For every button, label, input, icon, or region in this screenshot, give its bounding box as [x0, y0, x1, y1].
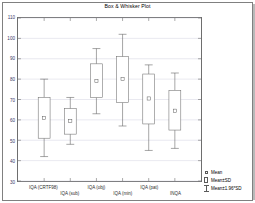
y-axis-labels: 30405060708090100110: [0, 0, 17, 183]
box-whisker-series: [18, 18, 201, 181]
mean-marker-icon: [203, 168, 210, 176]
y-tick-label: 60: [10, 118, 15, 123]
y-tick-label: 90: [10, 56, 15, 61]
legend-label-mean-ci: Mean±1.96*SD: [211, 186, 242, 191]
plot-area: [17, 17, 202, 182]
y-tick-label: 80: [10, 76, 15, 81]
figure-root: Box & Whisker Plot 30405060708090100110 …: [0, 0, 255, 203]
box-whisker-group: [169, 73, 181, 148]
legend-item-mean-sd: Mean±SD: [203, 176, 252, 184]
box-whisker-group: [64, 97, 76, 144]
y-tick-label: 30: [10, 180, 15, 185]
y-tick-label: 70: [10, 97, 15, 102]
chart-legend: Mean Mean±SD Mean±1.96*SD: [203, 168, 252, 194]
y-tick-label: 110: [8, 15, 15, 20]
legend-item-mean-ci: Mean±1.96*SD: [203, 184, 252, 192]
legend-item-mean: Mean: [203, 168, 252, 176]
y-tick-label: 40: [10, 159, 15, 164]
legend-label-mean: Mean: [211, 170, 222, 175]
mean-sd-marker-icon: [203, 176, 210, 184]
box-whisker-group: [90, 49, 102, 114]
chart-title: Box & Whisker Plot: [0, 3, 255, 10]
mean-ci-marker-icon: [203, 184, 210, 192]
y-tick-label: 50: [10, 138, 15, 143]
box-whisker-group: [143, 65, 155, 151]
legend-label-mean-sd: Mean±SD: [211, 178, 231, 183]
y-tick-label: 100: [7, 35, 15, 40]
box-whisker-group: [117, 34, 129, 126]
box-whisker-group: [38, 79, 50, 156]
